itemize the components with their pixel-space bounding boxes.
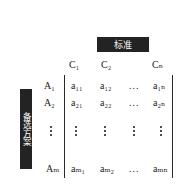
matrix-left-rule [64,75,65,178]
column-header-c1: C₁ [69,60,79,70]
figure-canvas: 标准 备选方案 C₁ C₂ Cₙ A₁ A₂ Aₘ a₁₁ a₁₂ ... a₁… [0,0,192,191]
row-label-a2: A₂ [44,98,55,108]
matrix-cell: a₂₁ [71,98,82,108]
row-label-a1: A₁ [44,81,55,91]
vertical-ellipsis-c2 [101,126,109,136]
matrix-cell: aₘ₁ [71,164,85,174]
vertical-ellipsis-c1 [72,126,80,136]
matrix-row-ellipsis: ... [129,164,140,174]
matrix-row-ellipsis: ... [129,98,140,108]
vertical-ellipsis-rowlabel [47,126,55,136]
matrix-row-ellipsis: ... [129,81,140,91]
column-header-cn: Cₙ [152,60,163,70]
criteria-header-label: 标准 [114,38,133,51]
matrix-cell: a₁₁ [71,81,82,91]
matrix-right-rule [172,75,173,178]
vertical-ellipsis-cn [157,126,165,136]
row-label-am: Aₘ [46,164,59,174]
matrix-cell: a₁ₙ [153,81,165,91]
matrix-cell: a₂₂ [100,98,111,108]
criteria-header-plate: 标准 [97,37,149,52]
vertical-ellipsis-middle [130,126,138,136]
alternatives-header-label: 备选方案 [22,112,31,146]
alternatives-header-plate: 备选方案 [20,89,32,169]
matrix-cell: a₁₂ [100,81,111,91]
matrix-cell: aₘ₂ [100,164,114,174]
column-header-c2: C₂ [101,60,111,70]
matrix-cell: a₂ₙ [153,98,165,108]
matrix-cell: aₘₙ [153,164,168,174]
